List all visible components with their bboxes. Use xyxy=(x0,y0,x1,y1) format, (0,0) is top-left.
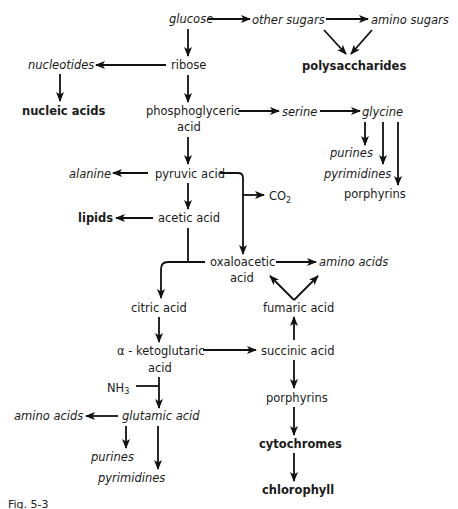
node-cytochromes: cytochromes xyxy=(259,437,342,451)
metabolic-pathway-diagram: glucose other sugars amino sugars polysa… xyxy=(0,0,458,509)
node-amino-acids-right: amino acids xyxy=(319,255,388,269)
node-amino-acids-left: amino acids xyxy=(14,409,83,423)
arrow-amino-sugars-polysaccharides xyxy=(351,30,372,54)
node-nucleotides: nucleotides xyxy=(28,58,94,72)
node-oxaloacetic-acid: oxaloacetic xyxy=(210,255,275,269)
node-glycine: glycine xyxy=(362,105,403,119)
arrow-other-sugars-polysaccharides xyxy=(324,30,346,54)
node-pyrimidines-bottom: pyrimidines xyxy=(97,471,165,485)
node-purines-bottom: purines xyxy=(90,450,134,464)
node-ribose: ribose xyxy=(171,58,206,72)
node-polysaccharides: polysaccharides xyxy=(302,59,406,73)
node-phosphoglyceric-acid-line2: acid xyxy=(177,120,201,134)
node-other-sugars: other sugars xyxy=(252,13,325,27)
figure-caption: Fig. 5-3 xyxy=(8,499,49,509)
node-amino-sugars: amino sugars xyxy=(371,13,449,27)
node-co2: CO2 xyxy=(269,189,291,205)
arrow-pyruvic-oxaloacetic xyxy=(220,173,243,254)
node-lipids: lipids xyxy=(78,211,113,225)
node-fumaric-acid: fumaric acid xyxy=(263,301,334,315)
node-oxaloacetic-acid-line2: acid xyxy=(230,271,254,285)
node-ketoglutaric-acid-line2: acid xyxy=(148,361,172,375)
node-succinic-acid: succinic acid xyxy=(261,344,334,358)
node-alanine: alanine xyxy=(69,167,111,181)
arrow-fumaric-amino-acids xyxy=(294,276,318,300)
node-citric-acid: citric acid xyxy=(131,301,187,315)
node-purines-top: purines xyxy=(329,146,373,160)
node-acetic-acid: acetic acid xyxy=(158,211,220,225)
arrow-acetic-citric xyxy=(161,228,205,298)
node-serine: serine xyxy=(282,105,317,119)
node-pyruvic-acid: pyruvic acid xyxy=(155,167,225,181)
node-chlorophyll: chlorophyll xyxy=(262,483,334,497)
node-porphyrins-top: porphyrins xyxy=(344,187,406,201)
node-nh3: NH3 xyxy=(107,381,129,396)
node-porphyrins-bottom: porphyrins xyxy=(266,391,328,405)
arrow-fumaric-oxaloacetic xyxy=(270,276,294,300)
node-nucleic-acids: nucleic acids xyxy=(22,104,105,118)
node-ketoglutaric-acid: α - ketoglutaric xyxy=(117,344,205,358)
arrows xyxy=(60,19,398,481)
node-phosphoglyceric-acid: phosphoglyceric xyxy=(146,104,240,118)
node-pyrimidines-top: pyrimidines xyxy=(323,167,391,181)
node-glutamic-acid: glutamic acid xyxy=(122,409,200,423)
node-glucose: glucose xyxy=(169,12,213,26)
